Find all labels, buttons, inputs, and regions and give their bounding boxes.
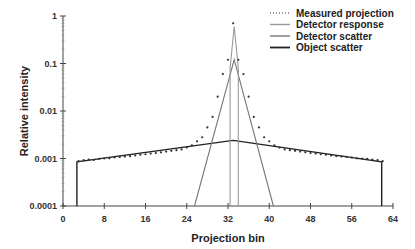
data-point xyxy=(299,150,301,152)
series-object-scatter xyxy=(77,140,382,206)
data-point xyxy=(113,156,115,158)
data-point xyxy=(150,152,152,154)
data-point xyxy=(77,160,79,162)
legend-label: Object scatter xyxy=(296,42,363,53)
data-point xyxy=(382,160,384,162)
y-axis-label: Relative intensity xyxy=(18,65,30,156)
data-point xyxy=(175,149,177,151)
y-tick-label: 0.1 xyxy=(44,59,57,69)
data-point xyxy=(129,155,131,157)
data-point xyxy=(206,126,208,128)
x-tick-label: 24 xyxy=(182,214,192,224)
data-point xyxy=(273,144,275,146)
data-point xyxy=(361,157,363,159)
data-point xyxy=(289,149,291,151)
x-tick-label: 64 xyxy=(388,214,398,224)
data-point xyxy=(124,155,126,157)
data-point xyxy=(304,151,306,153)
data-point xyxy=(278,146,280,148)
data-point xyxy=(248,96,250,98)
legend-item-object-scatter: Object scatter xyxy=(270,42,363,53)
legend-label: Measured projection xyxy=(296,8,394,19)
data-point xyxy=(211,116,213,118)
data-point xyxy=(186,146,188,148)
data-point xyxy=(201,136,203,138)
x-axis-label: Projection bin xyxy=(191,232,265,244)
y-tick-label: 1 xyxy=(52,11,57,21)
x-tick-label: 32 xyxy=(223,214,233,224)
data-point xyxy=(139,154,141,156)
data-point xyxy=(253,116,255,118)
data-point xyxy=(325,154,327,156)
y-ticks: 10.10.010.0010.0001 xyxy=(29,11,66,211)
series-detector-response xyxy=(230,27,238,207)
x-tick-label: 40 xyxy=(264,214,274,224)
legend-item-measured-projection: Measured projection xyxy=(270,8,394,19)
x-tick-label: 0 xyxy=(60,214,65,224)
data-point xyxy=(103,157,105,159)
data-point xyxy=(144,153,146,155)
data-point xyxy=(315,152,317,154)
data-point xyxy=(155,152,157,154)
x-tick-label: 48 xyxy=(305,214,315,224)
data-point xyxy=(108,157,110,159)
data-point xyxy=(93,159,95,161)
data-point xyxy=(242,73,244,75)
data-point xyxy=(268,140,270,142)
data-point xyxy=(232,22,234,24)
data-point xyxy=(160,151,162,153)
data-point xyxy=(345,156,347,158)
data-point xyxy=(366,158,368,160)
data-point xyxy=(170,150,172,152)
legend-item-detector-scatter: Detector scatter xyxy=(270,31,372,42)
data-point xyxy=(294,150,296,152)
legend-item-detector-response: Detector response xyxy=(270,19,384,30)
chart: 10.10.010.0010.0001 0816243240485664 Rel… xyxy=(0,0,415,249)
data-point xyxy=(134,154,136,156)
y-tick-label: 0.001 xyxy=(34,154,57,164)
data-point xyxy=(165,150,167,152)
data-point xyxy=(196,140,198,142)
data-point xyxy=(263,136,265,138)
data-point xyxy=(309,152,311,154)
series-detector-scatter xyxy=(195,60,274,206)
data-point xyxy=(371,158,373,160)
data-point xyxy=(320,153,322,155)
data-point xyxy=(376,159,378,161)
x-tick-label: 8 xyxy=(102,214,107,224)
data-point xyxy=(217,96,219,98)
data-point xyxy=(237,59,239,61)
data-point xyxy=(335,155,337,157)
y-tick-label: 0.01 xyxy=(39,106,57,116)
data-point xyxy=(88,158,90,160)
data-point xyxy=(340,155,342,157)
data-point xyxy=(180,148,182,150)
data-point xyxy=(222,73,224,75)
data-point xyxy=(330,154,332,156)
data-point xyxy=(284,148,286,150)
data-point xyxy=(227,59,229,61)
x-tick-label: 16 xyxy=(140,214,150,224)
data-point xyxy=(119,156,121,158)
y-tick-label: 0.0001 xyxy=(29,201,57,211)
data-point xyxy=(258,126,260,128)
legend-label: Detector scatter xyxy=(296,31,372,42)
legend: Measured projectionDetector responseDete… xyxy=(270,8,394,54)
data-point xyxy=(351,156,353,158)
x-tick-label: 56 xyxy=(347,214,357,224)
legend-label: Detector response xyxy=(296,19,384,30)
data-point xyxy=(356,157,358,159)
data-point xyxy=(83,159,85,161)
data-point xyxy=(191,144,193,146)
data-point xyxy=(98,158,100,160)
